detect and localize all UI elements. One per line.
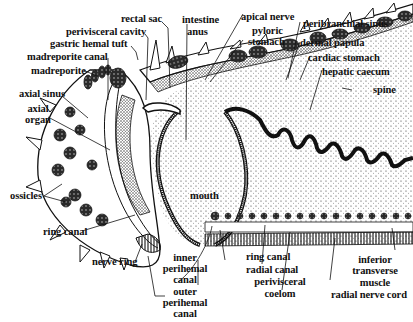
- label-anus: anus: [187, 26, 208, 37]
- label-dermal-papula: dermal papula: [300, 37, 364, 48]
- label-pyloric-stomach-line1: pyloric: [252, 25, 283, 36]
- label-spine: spine: [373, 84, 396, 95]
- label-hepatic-caecum: hepatic caecum: [322, 66, 390, 77]
- label-apical-nerve: apical nerve: [241, 11, 294, 22]
- label-madreporite-canal: madreporite canal: [27, 51, 108, 62]
- label-inner-perihemal-line2: perihemal: [160, 263, 210, 274]
- label-inner-perihemal-line3: canal: [160, 274, 210, 285]
- label-radial-canal: radial canal: [246, 264, 298, 275]
- label-mouth: mouth: [190, 190, 219, 201]
- label-pyloric-stomach-line2: stomach: [248, 36, 285, 47]
- radial-nerve-band: [205, 232, 413, 246]
- label-inferior-transverse-line3: muscle: [348, 277, 402, 288]
- label-peribranchial-sinus: peribranchial sinus: [303, 18, 388, 29]
- label-outer-perihemal-line1: outer: [160, 286, 210, 297]
- label-ring-canal-right: ring canal: [246, 251, 290, 262]
- label-cardiac-stomach: cardiac stomach: [308, 52, 380, 63]
- label-perivisceral-coelom-line1: perivisceral: [250, 276, 310, 287]
- label-ring-canal-left: ring canal: [43, 226, 87, 237]
- starfish-anatomy-diagram: rectal sac intestine anus apical nerve p…: [0, 0, 413, 322]
- label-outer-perihemal-line2: perihemal: [160, 297, 210, 308]
- label-madreporite: madreporite: [31, 65, 86, 76]
- label-perivisceral-cavity: perivisceral cavity: [66, 26, 146, 37]
- label-inferior-transverse-line1: inferior: [348, 254, 402, 265]
- label-ossicles: ossicles: [10, 190, 42, 201]
- label-rectal-sac: rectal sac: [121, 13, 162, 24]
- label-axial-organ-line2: organ: [22, 114, 54, 125]
- label-gastric-hemal-tuft: gastric hemal tuft: [50, 38, 128, 49]
- radial-canal-row: [205, 222, 413, 232]
- label-axial-sinus: axial sinus: [19, 88, 65, 99]
- label-nerve-ring: nerve ring: [92, 256, 137, 267]
- label-inner-perihemal-line1: inner: [160, 252, 210, 263]
- label-radial-nerve-cord: radial nerve cord: [331, 289, 407, 300]
- label-intestine: intestine: [182, 14, 219, 25]
- label-inferior-transverse-line2: transverse: [348, 265, 402, 276]
- label-perivisceral-coelom-line2: coelom: [250, 288, 310, 299]
- label-outer-perihemal-line3: canal: [160, 308, 210, 319]
- label-axial-organ-line1: axial: [22, 103, 54, 114]
